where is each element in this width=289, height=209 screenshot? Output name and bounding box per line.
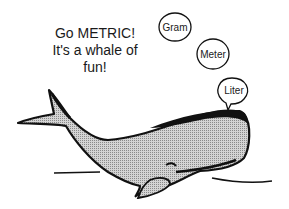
meter-label: Meter [200, 49, 226, 60]
liter-label: Liter [224, 85, 244, 96]
water-line-left [54, 172, 100, 173]
gram-bubble: Gram [159, 13, 191, 41]
gram-label: Gram [163, 22, 188, 33]
liter-bubble: Liter [218, 78, 248, 110]
meter-bubble: Meter [197, 39, 229, 69]
whale-body [18, 90, 249, 196]
whale-illustration: Gram Meter Liter [0, 0, 289, 209]
whale [18, 90, 272, 198]
water-line-right [212, 178, 272, 182]
